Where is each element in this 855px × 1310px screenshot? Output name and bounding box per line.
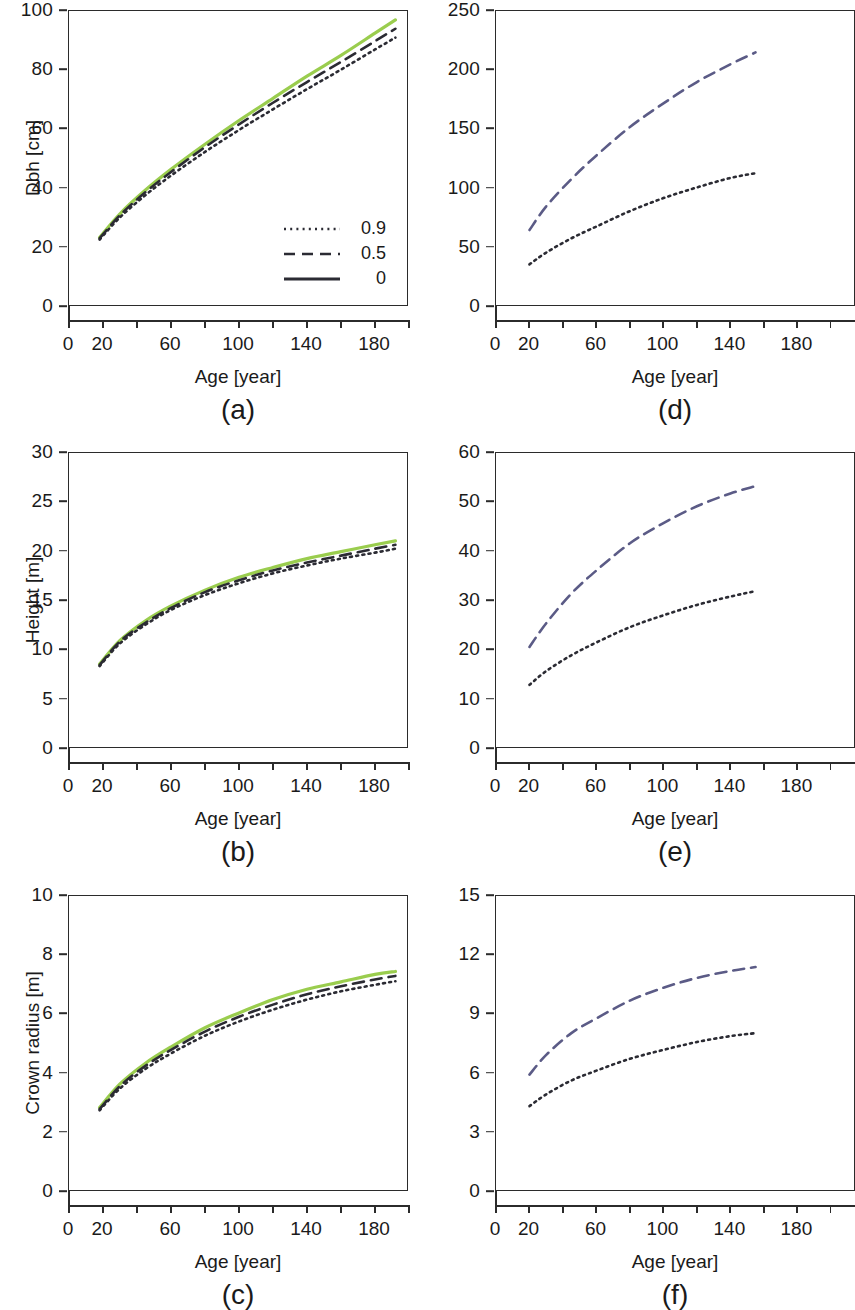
panel-d-xtick-mark — [830, 320, 832, 328]
panel-f-curves — [496, 896, 855, 1191]
panel-f-xtick-label: 0 — [490, 1218, 501, 1240]
panel-f-xtick-label: 20 — [518, 1218, 539, 1240]
panel-f-ytick-mark — [486, 1190, 494, 1192]
series-0-5 — [529, 967, 755, 1075]
panel-f-xtick-label: 140 — [714, 1218, 746, 1240]
panel-f-ytick-mark — [486, 1131, 494, 1133]
panel-f-ytick-label: 9 — [469, 1002, 480, 1024]
panel-f-x-axis-title: Age [year] — [632, 1251, 719, 1273]
panel-f-axis-corner — [495, 1191, 497, 1205]
panel-f-xtick-label: 60 — [585, 1218, 606, 1240]
panel-f-x-axis-line — [495, 1205, 855, 1207]
panel-f-ytick-label: 3 — [469, 1121, 480, 1143]
panel-f-ytick-label: 0 — [469, 1180, 480, 1202]
panel-f-ytick-mark — [486, 953, 494, 955]
panel-f-ytick-mark — [486, 894, 494, 896]
panel-f-ytick-label: 12 — [458, 943, 480, 965]
panel-f-xtick-mark — [796, 1205, 798, 1213]
panel-e-xtick-mark — [830, 762, 832, 770]
panel-f-xtick-mark — [495, 1205, 497, 1213]
panel-f-xtick-mark — [830, 1205, 832, 1213]
panel-f-ytick-label: 15 — [458, 884, 480, 906]
panel-f-ytick-mark — [486, 1013, 494, 1015]
panel-f-ytick-mark — [486, 1072, 494, 1074]
series-0-9 — [529, 1033, 755, 1106]
panel-f-plot-area — [495, 895, 855, 1191]
panel-f-xtick-mark — [562, 1205, 564, 1213]
panel-f-xtick-mark — [763, 1205, 765, 1213]
panel-f-xtick-mark — [696, 1205, 698, 1213]
panel-f-ytick-label: 6 — [469, 1062, 480, 1084]
panel-f-xtick-label: 100 — [647, 1218, 679, 1240]
panel-f-letter: (f) — [662, 1279, 688, 1310]
panel-f-xtick-mark — [595, 1205, 597, 1213]
panel-f-xtick-label: 180 — [781, 1218, 813, 1240]
panel-f-xtick-mark — [662, 1205, 664, 1213]
panel-f-xtick-mark — [729, 1205, 731, 1213]
panel-f-xtick-mark — [629, 1205, 631, 1213]
panel-f-xtick-mark — [528, 1205, 530, 1213]
